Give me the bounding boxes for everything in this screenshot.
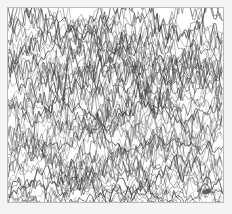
chart-frame <box>7 7 224 203</box>
waveform-plot <box>8 8 223 202</box>
waveform-trace <box>8 178 222 202</box>
figure-page <box>0 0 232 214</box>
